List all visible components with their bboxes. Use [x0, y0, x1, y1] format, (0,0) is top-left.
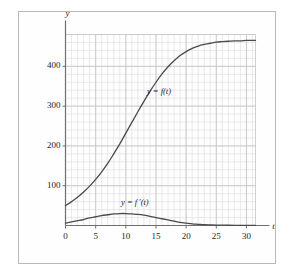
y-tick-label-100: 100 — [47, 180, 61, 190]
y-tick-label-400: 400 — [47, 60, 61, 70]
figure-container: 051015202530100200300400yty = f(t)y = f … — [0, 0, 293, 275]
x-tick-label-20: 20 — [182, 231, 191, 241]
y-axis-title: y — [66, 8, 70, 18]
x-tick-label-30: 30 — [242, 231, 251, 241]
y-tick-label-200: 200 — [47, 140, 61, 150]
x-tick-label-5: 5 — [93, 231, 98, 241]
grid-minor — [66, 35, 256, 226]
x-tick-label-0: 0 — [63, 231, 68, 241]
curve-series-1 — [66, 214, 256, 226]
curve-annotation-0: y = f(t) — [147, 86, 171, 96]
curve-series-0 — [66, 40, 256, 205]
x-tick-label-25: 25 — [212, 231, 221, 241]
x-tick-label-15: 15 — [151, 231, 160, 241]
x-tick-label-10: 10 — [121, 231, 130, 241]
x-axis-title: t — [272, 221, 275, 231]
axes — [66, 21, 270, 226]
y-tick-label-300: 300 — [47, 100, 61, 110]
curve-annotation-1: y = f ′(t) — [121, 197, 149, 207]
